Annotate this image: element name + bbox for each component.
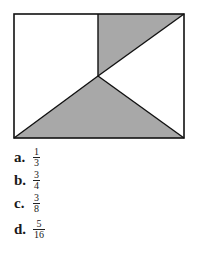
geometry-figure <box>0 0 201 145</box>
fraction-denominator: 8 <box>33 203 40 214</box>
fraction-denominator: 3 <box>33 157 40 168</box>
fraction-denominator: 16 <box>33 229 45 240</box>
choice-letter: a. <box>14 150 33 165</box>
fraction-numerator: 5 <box>36 219 43 229</box>
choice-letter: c. <box>14 196 33 211</box>
answer-choice-d[interactable]: d. 5 16 <box>14 217 45 241</box>
answer-choice-c[interactable]: c. 3 8 <box>14 191 40 215</box>
fraction: 3 4 <box>33 170 40 191</box>
fraction: 1 3 <box>33 147 40 168</box>
choice-letter: b. <box>14 173 33 188</box>
fraction-numerator: 3 <box>33 193 40 203</box>
fraction: 3 8 <box>33 193 40 214</box>
fraction-numerator: 3 <box>33 170 40 180</box>
fraction-numerator: 1 <box>33 147 40 157</box>
answer-choice-a[interactable]: a. 1 3 <box>14 145 40 169</box>
choice-letter: d. <box>14 222 33 237</box>
answer-choice-b[interactable]: b. 3 4 <box>14 168 40 192</box>
fraction-denominator: 4 <box>33 180 40 191</box>
fraction: 5 16 <box>33 219 45 240</box>
